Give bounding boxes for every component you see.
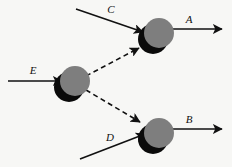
top-node-body[interactable] xyxy=(144,18,174,48)
edge-c: C xyxy=(76,3,143,32)
edge-a: A xyxy=(172,13,222,29)
edge-middle-to-bottom-line xyxy=(86,90,140,122)
edge-label-d: D xyxy=(105,131,114,143)
middle-node[interactable] xyxy=(54,66,90,102)
bottom-node[interactable] xyxy=(138,118,174,154)
edge-label-b: B xyxy=(186,113,193,125)
signal-flow-diagram: C E D A B xyxy=(0,0,232,167)
middle-node-body[interactable] xyxy=(60,66,90,96)
edge-label-e: E xyxy=(29,64,37,76)
top-node[interactable] xyxy=(138,18,174,54)
edge-label-a: A xyxy=(185,13,193,25)
edge-d: D xyxy=(80,131,145,159)
edge-middle-to-top xyxy=(86,48,139,76)
edge-b: B xyxy=(172,113,222,129)
diagram-canvas: C E D A B xyxy=(0,0,232,167)
bottom-node-body[interactable] xyxy=(144,118,174,148)
edge-label-c: C xyxy=(107,3,115,15)
edge-middle-to-top-line xyxy=(86,48,139,76)
edge-e: E xyxy=(8,64,62,81)
edge-middle-to-bottom xyxy=(86,90,140,122)
